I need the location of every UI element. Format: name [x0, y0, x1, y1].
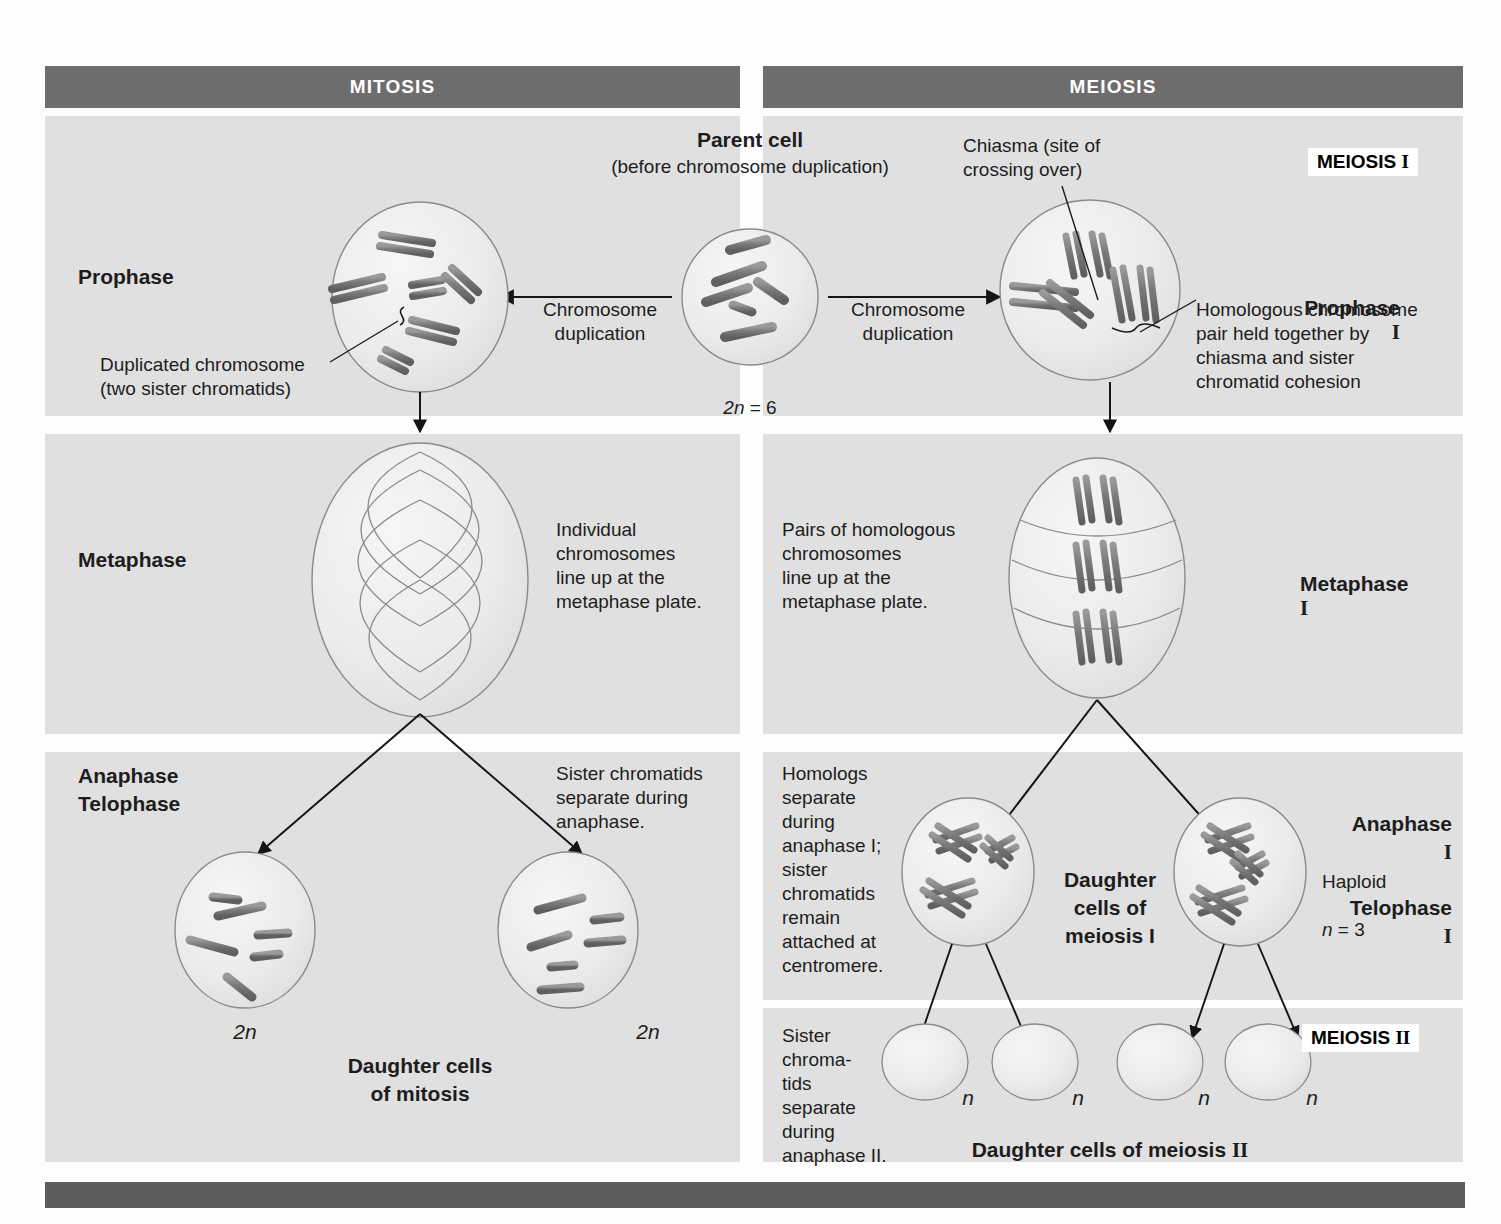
- meiosis2-ploidy-3: n: [1184, 1086, 1224, 1110]
- stage-label-prophase: Prophase: [78, 265, 298, 289]
- duplication-label-left: Chromosome duplication: [510, 298, 690, 346]
- haploid-word: Haploid: [1322, 871, 1386, 892]
- stage-label-metaphase: Metaphase: [78, 548, 298, 572]
- daughter-meiosis-ii-numeral: II: [1232, 1138, 1248, 1162]
- tag-meiosis-i-label: MEIOSIS: [1317, 151, 1396, 172]
- haploid-eq: = 3: [1333, 919, 1365, 940]
- mitosis-metaphase-note: Individual chromosomes line up at the me…: [556, 518, 746, 614]
- homologous-pair-label: Homologous chromosome pair held together…: [1196, 298, 1486, 394]
- tag-meiosis-ii-label: MEIOSIS: [1311, 1027, 1390, 1048]
- figure-root: MITOSIS MEIOSIS: [0, 0, 1501, 1224]
- mitosis-ploidy-left: 2n: [205, 1020, 285, 1044]
- daughter-cells-of-meiosis-i-label: Daughter cells of meiosis I: [1030, 866, 1190, 950]
- metaphase-i-name: Metaphase: [1300, 572, 1409, 595]
- metaphase-i-numeral: I: [1300, 596, 1308, 620]
- tag-meiosis-i: MEIOSIS I: [1308, 148, 1418, 176]
- anaphase-i-name: Anaphase: [1352, 812, 1452, 835]
- tag-meiosis-ii-numeral: II: [1395, 1027, 1410, 1048]
- meiosis2-ploidy-4: n: [1292, 1086, 1332, 1110]
- mitosis-anaphase-note: Sister chromatids separate during anapha…: [556, 762, 756, 834]
- daughter-cells-of-mitosis-label: Daughter cells of mitosis: [290, 1052, 550, 1108]
- header-meiosis-label: MEIOSIS: [1070, 76, 1157, 98]
- duplicated-chromosome-label: Duplicated chromosome (two sister chroma…: [100, 353, 360, 401]
- mitosis-ploidy-right: 2n: [608, 1020, 688, 1044]
- parent-ploidy-eq: = 6: [744, 397, 776, 418]
- duplication-label-right: Chromosome duplication: [818, 298, 998, 346]
- parent-cell-subtitle: (before chromosome duplication): [540, 155, 960, 179]
- chiasma-label: Chiasma (site of crossing over): [963, 134, 1183, 182]
- parent-cell-title: Parent cell: [600, 128, 900, 152]
- header-mitosis-label: MITOSIS: [350, 76, 435, 98]
- tag-meiosis-i-numeral: I: [1401, 151, 1408, 172]
- parent-cell-ploidy: 2n = 6: [660, 372, 840, 420]
- bottom-rule: [45, 1182, 1465, 1208]
- meiosis2-ploidy-1: n: [948, 1086, 988, 1110]
- header-mitosis: MITOSIS: [45, 66, 740, 108]
- stage-label-metaphase-i: Metaphase I: [1300, 548, 1501, 620]
- daughter-cells-of-meiosis-ii-label: Daughter cells of meiosis II: [900, 1114, 1320, 1162]
- haploid-label: Haploid n = 3: [1322, 846, 1482, 942]
- meiosis2-ploidy-2: n: [1058, 1086, 1098, 1110]
- stage-label-anaphase-telophase: Anaphase Telophase: [78, 762, 298, 818]
- haploid-n: n: [1322, 919, 1333, 940]
- header-meiosis: MEIOSIS: [763, 66, 1463, 108]
- daughter-meiosis-ii-text: Daughter cells of meiosis: [972, 1138, 1232, 1161]
- meiosis-metaphase-note: Pairs of homologous chromosomes line up …: [782, 518, 992, 614]
- homologs-separate-note: Homologs separate during anaphase I; sis…: [782, 762, 942, 978]
- parent-ploidy-2n: 2n: [723, 397, 744, 418]
- tag-meiosis-ii: MEIOSIS II: [1302, 1024, 1419, 1052]
